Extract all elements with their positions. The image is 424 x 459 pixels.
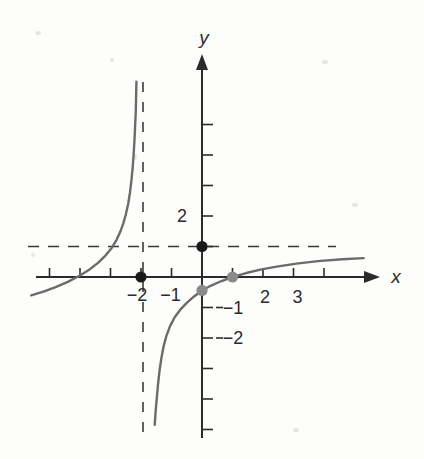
y-tick-label-neg2: −2	[223, 328, 244, 348]
paper-speck	[35, 31, 41, 35]
x-tick-label-2: 2	[260, 287, 270, 307]
paper-speck	[293, 428, 299, 432]
y-tick-label-2: 2	[177, 206, 187, 226]
curve-left-branch	[31, 82, 136, 295]
x-tick-label-3: 3	[292, 287, 302, 307]
rational-function-graph: xy−2−1232−1−2	[0, 0, 424, 459]
point-y-intercept-gray	[196, 285, 207, 296]
point-x-intercept	[135, 271, 146, 282]
x-tick-label-neg1: −1	[160, 285, 181, 305]
point-y-axis-point	[196, 241, 207, 252]
curve-right-branch	[155, 258, 364, 425]
x-axis-label: x	[390, 266, 402, 287]
paper-speck	[31, 253, 35, 257]
y-axis-label: y	[197, 27, 210, 48]
x-axis-arrow	[364, 271, 380, 283]
paper-speck	[352, 203, 358, 207]
paper-speck	[110, 58, 114, 62]
paper-speck	[322, 60, 328, 64]
point-x-intercept-gray	[227, 271, 238, 282]
y-axis-arrow	[196, 54, 208, 70]
graph-figure: xy−2−1232−1−2	[0, 0, 424, 459]
y-tick-label-neg1: −1	[223, 298, 244, 318]
x-tick-label-neg2: −2	[127, 285, 148, 305]
